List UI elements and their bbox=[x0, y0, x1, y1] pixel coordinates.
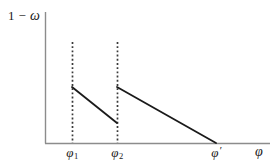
omega-symbol: ω bbox=[30, 8, 40, 23]
x-axis-label: φ bbox=[255, 145, 263, 159]
curve-branch-1 bbox=[72, 87, 117, 123]
tick-label-phi-prime: φ′ bbox=[211, 146, 221, 159]
tick-phi2-symbol: φ bbox=[111, 145, 118, 160]
figure-container: 1 − ω φ φ1 φ2 φ′ bbox=[0, 0, 280, 167]
plot-canvas bbox=[0, 0, 280, 167]
tick-phi1-subscript: 1 bbox=[74, 151, 78, 161]
curve-branch-2 bbox=[117, 87, 216, 143]
tick-phi1-symbol: φ bbox=[66, 145, 73, 160]
tick-phi2-subscript: 2 bbox=[119, 151, 123, 161]
tick-phi-prime-symbol: φ bbox=[211, 145, 218, 160]
y-axis-label-prefix: 1 − bbox=[8, 8, 30, 23]
y-axis-label: 1 − ω bbox=[8, 9, 40, 23]
tick-phi-prime-mark: ′ bbox=[219, 144, 221, 156]
tick-label-phi1: φ1 bbox=[66, 146, 77, 159]
tick-label-phi2: φ2 bbox=[111, 146, 122, 159]
